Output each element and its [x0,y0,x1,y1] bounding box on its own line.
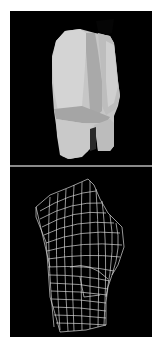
shaded-model-image [10,11,152,166]
wireframe-model-image [10,167,152,337]
wireframe-render-panel [10,167,152,337]
shaded-render-panel [10,11,152,166]
